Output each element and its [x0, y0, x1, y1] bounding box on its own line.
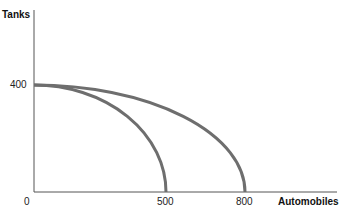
ppf-chart [0, 0, 349, 221]
ppf-curve-outer [34, 85, 245, 192]
origin-label: 0 [24, 197, 30, 207]
x-tick-800: 800 [236, 197, 253, 207]
x-axis-label: Automobiles [278, 197, 339, 207]
y-axis-label: Tanks [2, 10, 30, 20]
y-tick-400: 400 [10, 80, 27, 90]
x-tick-500: 500 [157, 197, 174, 207]
